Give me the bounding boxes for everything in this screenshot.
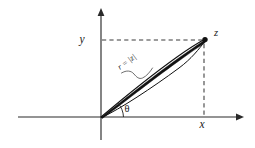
point-z-label: z: [213, 27, 218, 38]
modulus-leader-line: [122, 68, 153, 78]
modulus-vector-group: [101, 40, 205, 119]
point-z-group: [202, 37, 207, 42]
figure-canvas: y x z θ r = |z|: [0, 0, 255, 148]
vector-body: [101, 41, 205, 119]
angle-theta-label: θ: [124, 103, 129, 114]
modulus-leader-group: [122, 68, 153, 78]
axes-group: [18, 8, 244, 140]
y-axis-label: y: [78, 33, 85, 46]
modulus-label: r = |z|: [116, 52, 138, 71]
complex-plane-figure: y x z θ r = |z|: [0, 0, 255, 148]
y-axis-arrowhead-icon: [98, 8, 105, 16]
point-z-dot-icon: [202, 37, 207, 42]
x-axis-arrowhead-icon: [236, 113, 244, 120]
x-axis-label: x: [198, 118, 205, 130]
